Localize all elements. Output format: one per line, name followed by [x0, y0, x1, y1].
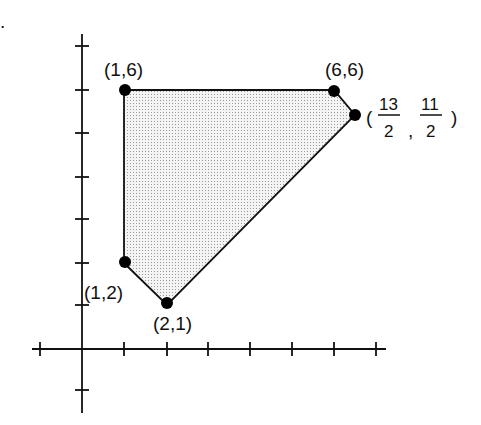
vertex-1-2	[119, 256, 131, 268]
svg-text:2: 2	[426, 122, 435, 141]
svg-text:,: ,	[408, 120, 413, 141]
y-axis	[75, 34, 89, 413]
svg-text:11: 11	[421, 95, 439, 114]
label-13-2-11-2: ( 13 2 , 11 2 )	[366, 95, 457, 141]
svg-text:(: (	[366, 107, 373, 128]
vertex-2-1	[161, 297, 173, 309]
stray-bullet: .	[0, 11, 5, 32]
svg-text:): )	[451, 107, 457, 128]
feasible-region-diagram: . (1,6) (6,6) ( 13 2	[0, 0, 481, 425]
vertex-1-6	[119, 84, 131, 96]
label-6-6: (6,6)	[325, 59, 364, 80]
vertex-13-2-11-2	[349, 109, 361, 121]
x-axis	[32, 342, 386, 356]
vertex-6-6	[328, 85, 340, 97]
svg-text:2: 2	[384, 122, 393, 141]
feasible-region	[124, 90, 355, 305]
label-1-6: (1,6)	[104, 59, 143, 80]
label-1-2: (1,2)	[84, 282, 123, 303]
svg-text:13: 13	[379, 95, 398, 114]
label-2-1: (2,1)	[153, 313, 192, 334]
